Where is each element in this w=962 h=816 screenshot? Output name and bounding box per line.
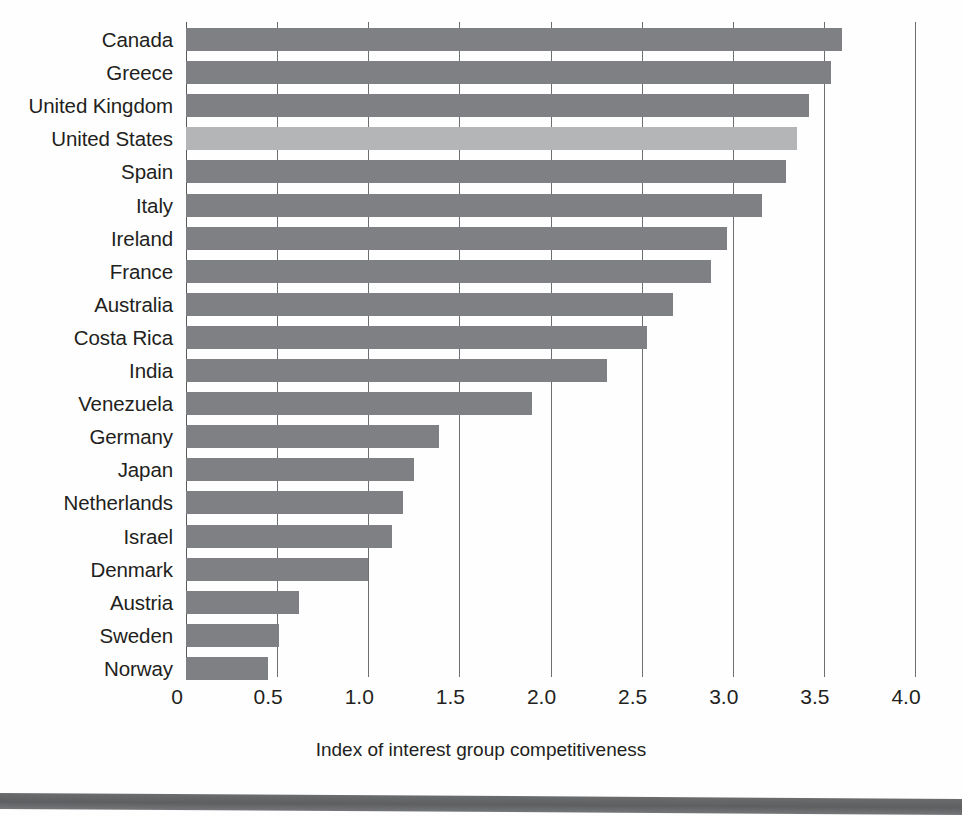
category-label: Japan <box>118 458 173 481</box>
gridline <box>915 22 916 677</box>
bar <box>186 227 727 250</box>
bar-row <box>186 227 915 250</box>
x-axis-tick-labels: 00.51.01.52.02.53.03.54.0 <box>0 684 962 718</box>
bar <box>186 458 414 481</box>
x-tick-label: 3.0 <box>709 684 738 710</box>
x-tick-label: 2.5 <box>618 684 647 710</box>
category-label: Austria <box>110 591 173 614</box>
plot-area <box>186 22 915 677</box>
bar <box>186 392 532 415</box>
category-label: Germany <box>89 425 173 448</box>
bar-row <box>186 160 915 183</box>
bar-row <box>186 194 915 217</box>
category-label: Australia <box>94 293 173 316</box>
category-label: Denmark <box>91 558 173 581</box>
bar <box>186 260 711 283</box>
x-tick-label: 1.0 <box>345 684 374 710</box>
category-label: Netherlands <box>64 491 173 514</box>
x-tick-label: 1.5 <box>436 684 465 710</box>
bar-row <box>186 624 915 647</box>
bar-row <box>186 525 915 548</box>
x-tick-label: 3.5 <box>800 684 829 710</box>
bar-row <box>186 558 915 581</box>
bar-row <box>186 591 915 614</box>
footer-divider <box>0 793 962 815</box>
category-label: Venezuela <box>78 392 173 415</box>
bar-row <box>186 657 915 680</box>
bar-row <box>186 458 915 481</box>
category-label: Canada <box>102 28 173 51</box>
x-tick-label: 0 <box>171 684 183 710</box>
bar-row <box>186 94 915 117</box>
category-label: United Kingdom <box>29 94 173 117</box>
chart-figure: CanadaGreeceUnited KingdomUnited StatesS… <box>0 0 962 816</box>
bar-row <box>186 392 915 415</box>
bar <box>186 558 368 581</box>
bar <box>186 160 786 183</box>
bar <box>186 657 268 680</box>
bar <box>186 624 279 647</box>
category-label: Spain <box>121 160 173 183</box>
bar <box>186 61 831 84</box>
bar <box>186 94 809 117</box>
bar <box>186 194 762 217</box>
bar <box>186 28 842 51</box>
category-label: Italy <box>136 194 173 217</box>
x-tick-label: 4.0 <box>891 684 920 710</box>
bar <box>186 293 673 316</box>
category-label: Sweden <box>100 624 173 647</box>
category-label: Greece <box>106 61 173 84</box>
bar-row <box>186 425 915 448</box>
category-label: Ireland <box>111 227 173 250</box>
category-label: United States <box>51 127 173 150</box>
category-label: India <box>129 359 173 382</box>
bar <box>186 425 439 448</box>
bar <box>186 525 392 548</box>
bar-row <box>186 293 915 316</box>
bar-row <box>186 61 915 84</box>
bar <box>186 127 797 150</box>
bar <box>186 491 403 514</box>
category-label: Costa Rica <box>74 326 173 349</box>
bar-row <box>186 28 915 51</box>
bar-row <box>186 127 915 150</box>
bar-row <box>186 326 915 349</box>
category-axis-labels: CanadaGreeceUnited KingdomUnited StatesS… <box>0 22 173 677</box>
category-label: Norway <box>104 657 173 680</box>
x-axis-title: Index of interest group competitiveness <box>0 739 962 761</box>
bar-row <box>186 359 915 382</box>
bar <box>186 591 299 614</box>
x-tick-label: 2.0 <box>527 684 556 710</box>
bar <box>186 359 607 382</box>
x-tick-label: 0.5 <box>254 684 283 710</box>
category-label: Israel <box>123 525 173 548</box>
category-label: France <box>110 260 173 283</box>
bar-row <box>186 260 915 283</box>
bar-row <box>186 491 915 514</box>
bar <box>186 326 647 349</box>
